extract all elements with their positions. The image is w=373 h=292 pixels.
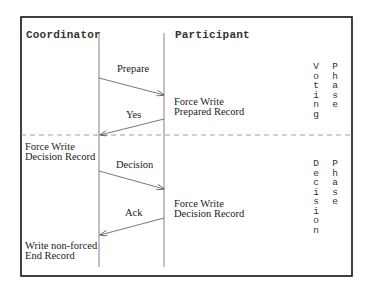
prepare-label: Prepare (117, 64, 149, 74)
participant-header: Participant (175, 30, 250, 40)
coordinator-header: Coordinator (26, 30, 101, 40)
participant-force-write-prepared-line2: Prepared Record (174, 107, 244, 117)
coordinator-force-write-decision-line2: Decision Record (25, 152, 95, 162)
decision-label: Decision (116, 160, 153, 170)
voting-phase-label-word1: V o t i n g (312, 62, 320, 119)
participant-force-write-decision-line2: Decision Record (174, 209, 244, 219)
decision-phase-label-word2: P h a s e (331, 159, 339, 207)
decision-phase-label-word1: D e c i s i o n (312, 159, 320, 235)
yes-arrow (100, 119, 164, 135)
coordinator-end-record-line2: End Record (25, 251, 75, 261)
prepare-arrow (99, 78, 164, 95)
voting-phase-label-word2: P h a s e (331, 62, 339, 110)
ack-arrow (100, 218, 164, 235)
decision-arrow (99, 171, 164, 189)
two-phase-commit-diagram: Coordinator Participant Prepare Yes Deci… (0, 0, 373, 292)
yes-label: Yes (126, 110, 141, 120)
ack-label: Ack (125, 208, 143, 218)
